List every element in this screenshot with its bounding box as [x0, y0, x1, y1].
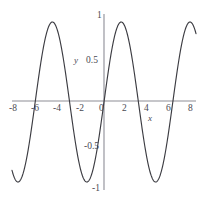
x-tick-label-neg2: -2 — [76, 104, 84, 114]
x-tick-label-neg4: -4 — [53, 104, 61, 114]
y-axis-label: y — [74, 56, 78, 65]
x-tick-label-pos2: 2 — [122, 104, 127, 114]
y-tick-label-half: 0.5 — [86, 56, 98, 66]
y-tick-label-neg-half: -0.5 — [84, 142, 99, 152]
y-tick-label-neg-one: -1 — [92, 184, 100, 194]
x-tick-label-pos8: 8 — [188, 104, 193, 114]
x-tick-label-pos6: 6 — [166, 104, 171, 114]
x-axis-label: x — [148, 114, 152, 123]
x-tick-label-neg8: -8 — [9, 104, 17, 114]
plot-canvas — [0, 0, 204, 198]
y-tick-label-one: 1 — [97, 11, 102, 21]
x-tick-label-zero: 0 — [99, 104, 104, 114]
sine-function-graph: -8 -6 -4 -2 0 2 4 6 8 1 0.5 -0.5 -1 y x — [0, 0, 204, 198]
x-tick-label-neg6: -6 — [31, 104, 39, 114]
